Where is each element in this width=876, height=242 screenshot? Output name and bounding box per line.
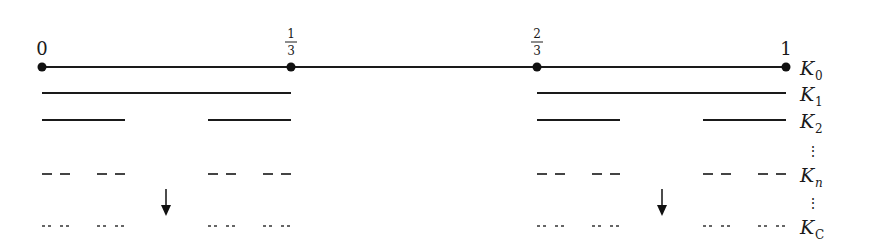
point-1 bbox=[782, 63, 791, 72]
point-one-third bbox=[287, 63, 296, 72]
down-arrow-icon bbox=[657, 189, 667, 216]
svg-text:K: K bbox=[799, 83, 816, 105]
label-kc: K C bbox=[799, 216, 824, 242]
label-k0: K 0 bbox=[799, 57, 823, 83]
cantor-set-diagram: 0 1 3 2 3 1 bbox=[0, 0, 876, 242]
row-kc bbox=[42, 225, 785, 227]
svg-text:K: K bbox=[799, 216, 816, 238]
row-k0 bbox=[38, 63, 791, 72]
svg-text:3: 3 bbox=[533, 44, 541, 58]
label-k1: K 1 bbox=[799, 83, 823, 109]
label-kn: K n bbox=[799, 164, 823, 190]
svg-text:1: 1 bbox=[815, 95, 823, 109]
tick-label-two-thirds: 2 3 bbox=[531, 27, 543, 58]
tick-label-one-third: 1 3 bbox=[285, 27, 297, 58]
svg-text:1: 1 bbox=[287, 27, 295, 41]
tick-label-1: 1 bbox=[780, 38, 791, 59]
svg-text:3: 3 bbox=[287, 44, 295, 58]
svg-text:2: 2 bbox=[815, 122, 823, 136]
point-two-thirds bbox=[533, 63, 542, 72]
svg-text:K: K bbox=[799, 110, 816, 132]
vertical-ellipsis: ⋮ bbox=[806, 195, 820, 211]
svg-text:K: K bbox=[799, 164, 816, 186]
tick-label-0: 0 bbox=[36, 38, 47, 59]
down-arrow-icon bbox=[161, 189, 171, 216]
label-k2: K 2 bbox=[799, 110, 823, 136]
svg-text:K: K bbox=[799, 57, 816, 79]
svg-text:C: C bbox=[815, 228, 824, 242]
svg-text:0: 0 bbox=[815, 69, 823, 83]
vertical-ellipsis: ⋮ bbox=[806, 143, 820, 159]
svg-text:2: 2 bbox=[533, 27, 541, 41]
point-0 bbox=[38, 63, 47, 72]
svg-text:n: n bbox=[815, 176, 823, 190]
